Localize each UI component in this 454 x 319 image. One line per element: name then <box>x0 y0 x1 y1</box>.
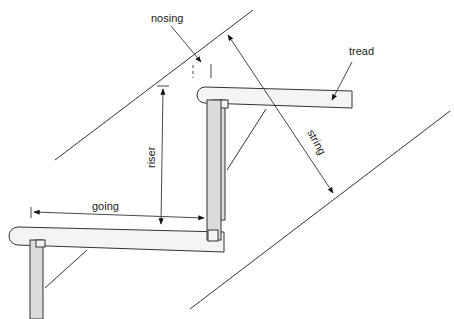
label-nosing: nosing <box>151 12 183 24</box>
label-going: going <box>92 200 119 212</box>
label-string: string <box>305 127 328 156</box>
staircase-diagram: nosing tread riser going string <box>0 0 454 319</box>
label-riser: riser <box>145 146 157 168</box>
label-tread: tread <box>349 45 374 57</box>
